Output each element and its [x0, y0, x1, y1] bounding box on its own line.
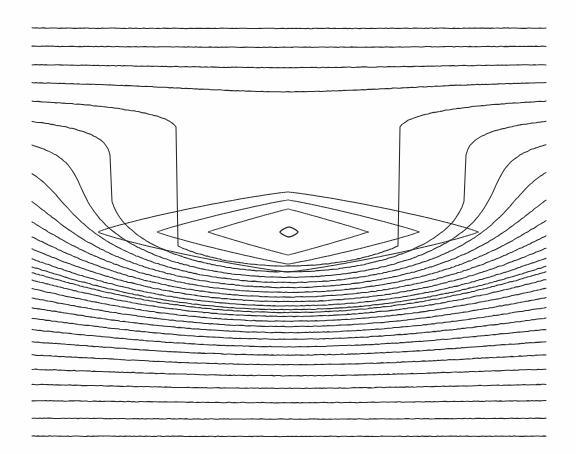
contour-line-0-0: [32, 28, 546, 29]
contour-plot-canvas: [0, 0, 576, 454]
contour-figure: [0, 0, 576, 454]
